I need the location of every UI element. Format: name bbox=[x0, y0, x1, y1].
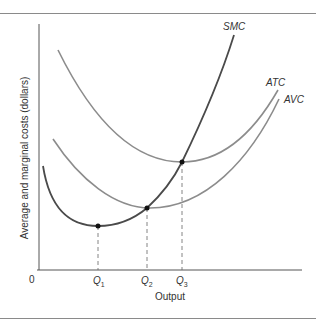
cost-curves-chart: SMC ATC AVC 0 Q1 Q2 Q3 Output Average an… bbox=[0, 0, 321, 323]
avc-curve bbox=[53, 99, 279, 208]
atc-curve bbox=[58, 50, 278, 162]
x-axis-title: Output bbox=[155, 291, 185, 302]
smc-label: SMC bbox=[223, 21, 246, 32]
atc-label: ATC bbox=[265, 77, 286, 88]
q3-label: Q3 bbox=[176, 275, 188, 288]
smc-curve bbox=[43, 35, 234, 226]
point-q1 bbox=[96, 224, 101, 229]
point-q2 bbox=[145, 206, 150, 211]
y-axis-title: Average and marginal costs (dollars) bbox=[19, 77, 30, 240]
q1-label: Q1 bbox=[93, 275, 105, 288]
origin-label: 0 bbox=[29, 274, 35, 285]
avc-label: AVC bbox=[283, 94, 305, 105]
point-q3 bbox=[180, 160, 185, 165]
q2-label: Q2 bbox=[141, 275, 153, 288]
